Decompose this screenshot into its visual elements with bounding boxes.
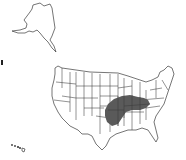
marker-glyph [1,60,3,65]
us-range-map [0,0,186,160]
alaska-inset [12,3,56,52]
hawaii-inset [11,144,25,152]
